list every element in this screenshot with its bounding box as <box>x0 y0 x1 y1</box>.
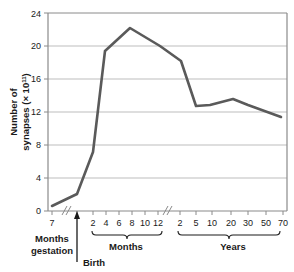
x-tick-label-month-8: 8 <box>129 218 134 228</box>
x-tick-label-year-5: 5 <box>193 218 198 228</box>
x-tick-label-year-20: 20 <box>226 218 236 228</box>
group-label-months: Months <box>92 231 162 252</box>
y-tick-label-0: 0 <box>36 206 41 216</box>
group-label-gestation-line1: Months <box>35 233 69 244</box>
x-tick-label-month-4: 4 <box>103 218 108 228</box>
y-tick-label-16: 16 <box>31 74 41 84</box>
group-label-years: Years <box>178 231 280 252</box>
x-tick-label-year-10: 10 <box>207 218 217 228</box>
group-label-gestation: Months gestation <box>31 233 73 256</box>
birth-label: Birth <box>83 257 105 268</box>
y-axis-title-line2-prefix: synapses (× 10 <box>20 83 31 151</box>
years-brace-icon <box>178 231 280 239</box>
y-tick-label-20: 20 <box>31 41 41 51</box>
x-tick-labels: 7 2 4 6 8 10 12 2 5 10 20 30 50 70 <box>49 218 288 228</box>
y-tick-labels: 0 4 8 12 16 20 24 <box>31 9 41 216</box>
group-label-months-text: Months <box>109 241 143 252</box>
y-tick-label-12: 12 <box>31 107 41 117</box>
x-tick-label-month-12: 12 <box>153 218 163 228</box>
x-tick-label-year-70: 70 <box>278 218 288 228</box>
x-tick-label-year-2: 2 <box>177 218 182 228</box>
y-tick-label-4: 4 <box>36 173 41 183</box>
x-tick-label-year-30: 30 <box>243 218 253 228</box>
x-tick-label-month-2: 2 <box>90 218 95 228</box>
x-tick-label-month-10: 10 <box>140 218 150 228</box>
group-label-gestation-line2: gestation <box>31 245 73 256</box>
y-axis-title-line1: Number of <box>8 87 19 135</box>
synapse-density-chart: 0 4 8 12 16 20 24 Number of synapses (× … <box>0 0 294 272</box>
y-tick-label-24: 24 <box>31 9 41 19</box>
x-tick-label-month-6: 6 <box>116 218 121 228</box>
group-label-years-text: Years <box>220 241 245 252</box>
y-axis-title-line2-suffix: ) <box>20 73 31 76</box>
x-tick-label-gest-7: 7 <box>49 218 54 228</box>
x-tick-label-year-50: 50 <box>261 218 271 228</box>
birth-arrow-head-icon <box>74 211 80 219</box>
y-axis-title-line2: synapses (× 1011) <box>20 73 31 150</box>
months-brace-icon <box>92 231 162 239</box>
y-tick-label-8: 8 <box>36 140 41 150</box>
y-axis-title: Number of synapses (× 1011) <box>8 73 31 150</box>
chart-svg: 0 4 8 12 16 20 24 Number of synapses (× … <box>0 0 294 272</box>
